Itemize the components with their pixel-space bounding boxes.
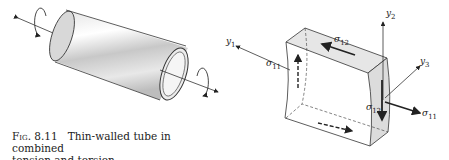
tube-illustration	[18, 8, 218, 103]
stress-element-illustration	[236, 22, 420, 146]
label-y2: y2	[386, 8, 396, 21]
label-sigma12-right: σ12	[366, 102, 381, 115]
label-y1: y1	[226, 36, 236, 49]
figure-caption: Fig. 8.11 Thin-walled tube in combined t…	[12, 130, 222, 160]
label-sigma11-right: σ11	[422, 108, 437, 121]
label-sigma12-top: σ12	[334, 34, 349, 47]
label-y3: y3	[420, 56, 430, 69]
label-sigma11-left: σ11	[266, 58, 281, 71]
caption-line-2: tension and torsion.	[12, 154, 118, 160]
figure-number: Fig. 8.11	[12, 130, 58, 142]
